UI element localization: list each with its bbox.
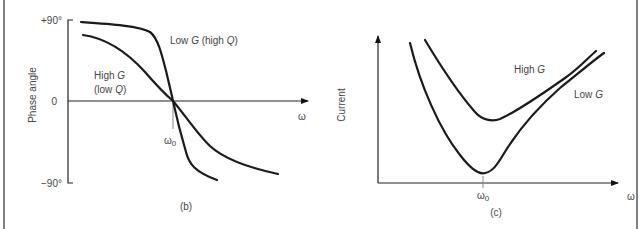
panel-c-current-plot: Current ω ω0 High G Low G (c) (336, 36, 635, 218)
label-low-g-high-q: Low G (high Q) (170, 35, 238, 46)
panel-b-y-axis-label: Phase angle (27, 67, 38, 123)
panel-b-omega0-label: ω0 (164, 135, 177, 148)
panel-c-caption: (c) (490, 207, 502, 218)
y-tick-zero: 0 (51, 96, 57, 107)
label-high-g: High G (94, 70, 125, 81)
label-high-g-current: High G (514, 64, 545, 75)
panel-b-caption: (b) (180, 201, 192, 212)
panel-c-x-axis-label: ω (627, 191, 635, 202)
panel-c-y-axis-label: Current (336, 88, 347, 122)
panel-c-omega0-label: ω0 (477, 190, 490, 203)
figure: +90° 0 −90° Phase angle ω ω0 Low G (high… (0, 0, 641, 229)
panel-b-phase-plot: +90° 0 −90° Phase angle ω ω0 Low G (high… (27, 15, 308, 212)
curve-high-g-low-q (83, 35, 278, 174)
y-tick-plus90: +90° (41, 15, 62, 26)
label-low-g-current: Low G (574, 89, 603, 100)
label-low-q: (low Q) (94, 84, 126, 95)
panel-b-x-axis-label: ω (298, 111, 306, 122)
y-tick-minus90: −90° (41, 178, 62, 189)
